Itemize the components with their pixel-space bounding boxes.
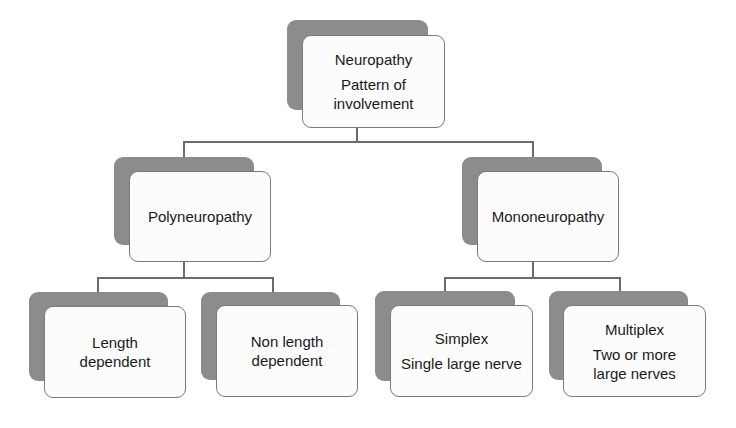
root-title: Neuropathy <box>335 50 413 69</box>
polyneuropathy-label: Polyneuropathy <box>148 207 252 226</box>
length-dependent-line1: Length <box>92 333 138 352</box>
connector-to-mononeuropathy <box>532 141 534 158</box>
connector-to-length-dependent <box>97 277 99 293</box>
polyneuropathy-node: Polyneuropathy <box>129 171 271 262</box>
multiplex-title: Multiplex <box>605 320 664 339</box>
simplex-title: Simplex <box>435 329 488 348</box>
length-dependent-node: Length dependent <box>44 306 186 398</box>
non-length-dependent-line1: Non length <box>251 332 324 351</box>
simplex-node: Simplex Single large nerve <box>390 305 533 397</box>
connector-poly-children-horizontal <box>97 277 274 279</box>
non-length-dependent-node: Non length dependent <box>216 305 358 397</box>
mononeuropathy-node: Mononeuropathy <box>477 171 619 262</box>
root-subtitle-line1: Pattern of <box>341 75 406 94</box>
root-node-neuropathy: Neuropathy Pattern of involvement <box>302 35 445 128</box>
mononeuropathy-label: Mononeuropathy <box>492 207 605 226</box>
connector-mono-children-horizontal <box>444 277 621 279</box>
simplex-description: Single large nerve <box>401 354 522 373</box>
length-dependent-line2: dependent <box>80 352 151 371</box>
multiplex-description-line2: large nerves <box>593 364 676 383</box>
multiplex-description-line1: Two or more <box>593 345 676 364</box>
connector-level2-horizontal <box>183 141 534 143</box>
connector-to-non-length-dependent <box>272 277 274 293</box>
non-length-dependent-line2: dependent <box>252 351 323 370</box>
root-subtitle-line2: involvement <box>333 94 413 113</box>
connector-to-polyneuropathy <box>183 141 185 158</box>
multiplex-node: Multiplex Two or more large nerves <box>563 305 706 397</box>
